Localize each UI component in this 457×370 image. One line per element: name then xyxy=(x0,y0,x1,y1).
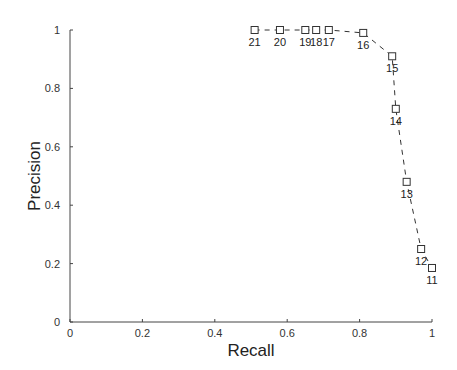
square-marker-icon xyxy=(389,53,396,60)
y-tick-label: 0.4 xyxy=(45,199,60,211)
point-labels: 2120191817161514131211 xyxy=(248,36,437,286)
data-series xyxy=(251,27,435,272)
square-marker-icon xyxy=(325,27,332,34)
point-label: 12 xyxy=(415,255,427,267)
point-label: 20 xyxy=(274,36,286,48)
square-marker-icon xyxy=(251,27,258,34)
point-label: 18 xyxy=(310,36,322,48)
point-label: 16 xyxy=(357,39,369,51)
square-marker-icon xyxy=(360,29,367,36)
x-tick-label: 1 xyxy=(429,327,435,339)
x-tick-label: 0.4 xyxy=(207,327,222,339)
x-tick-label: 0 xyxy=(67,327,73,339)
point-label: 21 xyxy=(248,36,260,48)
y-tick-label: 1 xyxy=(54,24,60,36)
y-tick-label: 0.8 xyxy=(45,82,60,94)
y-tick-label: 0.2 xyxy=(45,258,60,270)
y-tick-label: 0.6 xyxy=(45,141,60,153)
precision-recall-chart: 00.20.40.60.8100.20.40.60.81 21201918171… xyxy=(0,0,457,370)
square-marker-icon xyxy=(313,27,320,34)
square-marker-icon xyxy=(276,27,283,34)
y-axis-title: Precision xyxy=(25,141,44,211)
point-label: 15 xyxy=(386,62,398,74)
square-marker-icon xyxy=(403,178,410,185)
square-marker-icon xyxy=(418,246,425,253)
x-tick-label: 0.8 xyxy=(352,327,367,339)
point-label: 14 xyxy=(390,115,402,127)
square-marker-icon xyxy=(429,264,436,271)
square-marker-icon xyxy=(392,105,399,112)
series-line xyxy=(255,30,432,268)
x-tick-label: 0.2 xyxy=(135,327,150,339)
point-label: 13 xyxy=(401,188,413,200)
point-label: 11 xyxy=(426,274,437,286)
y-tick-label: 0 xyxy=(54,316,60,328)
point-label: 17 xyxy=(323,36,335,48)
x-axis-title: Recall xyxy=(227,341,274,360)
x-tick-label: 0.6 xyxy=(280,327,295,339)
axes: 00.20.40.60.8100.20.40.60.81 xyxy=(45,24,435,339)
square-marker-icon xyxy=(302,27,309,34)
